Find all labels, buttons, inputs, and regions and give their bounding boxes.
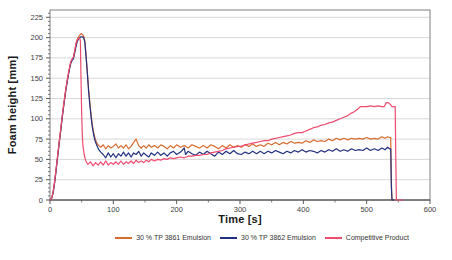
legend-swatch-2 xyxy=(325,237,342,239)
y-tick-label-100: 100 xyxy=(30,114,43,123)
legend-item-tp3861: 30 % TP 3861 Emulsion xyxy=(115,234,211,241)
y-tick-label-225: 225 xyxy=(30,13,43,22)
y-tick-label-150: 150 xyxy=(30,74,43,83)
y-tick-label-75: 75 xyxy=(35,135,43,144)
legend-swatch-1 xyxy=(220,237,237,239)
y-tick-label-25: 25 xyxy=(35,175,43,184)
y-tick-label-175: 175 xyxy=(30,53,43,62)
y-axis-title: Foam height [mm] xyxy=(6,56,18,155)
y-tick-label-50: 50 xyxy=(35,155,43,164)
y-tick-label-125: 125 xyxy=(30,94,43,103)
legend-label-tp3861: 30 % TP 3861 Emulsion xyxy=(136,234,211,241)
legend-swatch-0 xyxy=(115,237,132,239)
y-tick-label-200: 200 xyxy=(30,33,43,42)
foam-height-chart-figure: 0255075100125150175200225010020030040050… xyxy=(0,0,452,260)
legend-label-tp3862: 30 % TP 3862 Emulsion xyxy=(241,234,316,241)
chart-legend: 30 % TP 3861 Emulsion 30 % TP 3862 Emuls… xyxy=(0,234,452,241)
y-tick-label-0: 0 xyxy=(39,196,43,205)
legend-item-competitive: Competitive Product xyxy=(325,234,409,241)
legend-label-competitive: Competitive Product xyxy=(346,234,409,241)
x-axis-title: Time [s] xyxy=(50,213,430,225)
legend-item-tp3862: 30 % TP 3862 Emulsion xyxy=(220,234,316,241)
plot-area xyxy=(50,10,430,200)
